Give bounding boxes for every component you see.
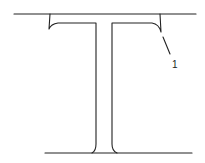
callout-leader-line — [163, 37, 170, 54]
right-flange-and-web-outline — [112, 14, 161, 153]
callout-label-1: 1 — [172, 59, 178, 70]
left-flange-and-web-outline — [49, 14, 96, 153]
t-profile-diagram: 1 — [0, 0, 205, 163]
